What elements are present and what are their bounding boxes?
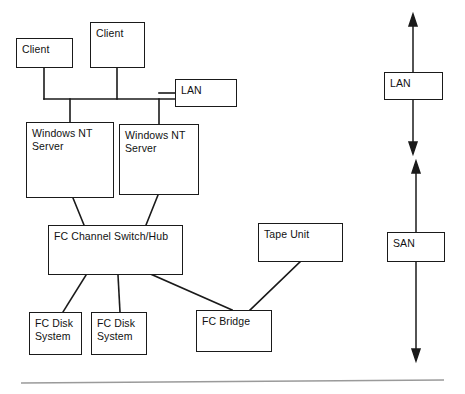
node-lan-scope-label[interactable]: LAN <box>384 72 443 100</box>
link-tapeunit-fcbridge <box>250 262 300 310</box>
node-tape-unit[interactable]: Tape Unit <box>258 223 343 262</box>
link-ntserver1-fcswitch <box>73 198 84 225</box>
footer-rule <box>21 380 444 383</box>
node-fc-disk-system-1[interactable]: FC Disk System <box>29 312 82 355</box>
link-fcswitch-fcbridge <box>146 272 232 310</box>
node-lan-left[interactable]: LAN <box>175 79 237 107</box>
node-windows-nt-server-1[interactable]: Windows NT Server <box>26 122 114 198</box>
diagram-canvas: Client Client LAN Windows NT Server Wind… <box>0 0 465 394</box>
node-san-scope-label[interactable]: SAN <box>387 232 445 262</box>
node-fc-disk-system-2[interactable]: FC Disk System <box>91 312 147 355</box>
node-client-1[interactable]: Client <box>16 38 73 68</box>
link-fcswitch-fcdisk1 <box>63 275 86 312</box>
link-ntserver2-fcswitch <box>146 195 158 225</box>
node-windows-nt-server-2[interactable]: Windows NT Server <box>119 124 199 195</box>
link-fcswitch-fcdisk2 <box>118 275 120 312</box>
node-client-2[interactable]: Client <box>90 22 145 68</box>
node-fc-channel-switch-hub[interactable]: FC Channel Switch/Hub <box>48 225 183 275</box>
node-fc-bridge[interactable]: FC Bridge <box>196 310 272 352</box>
